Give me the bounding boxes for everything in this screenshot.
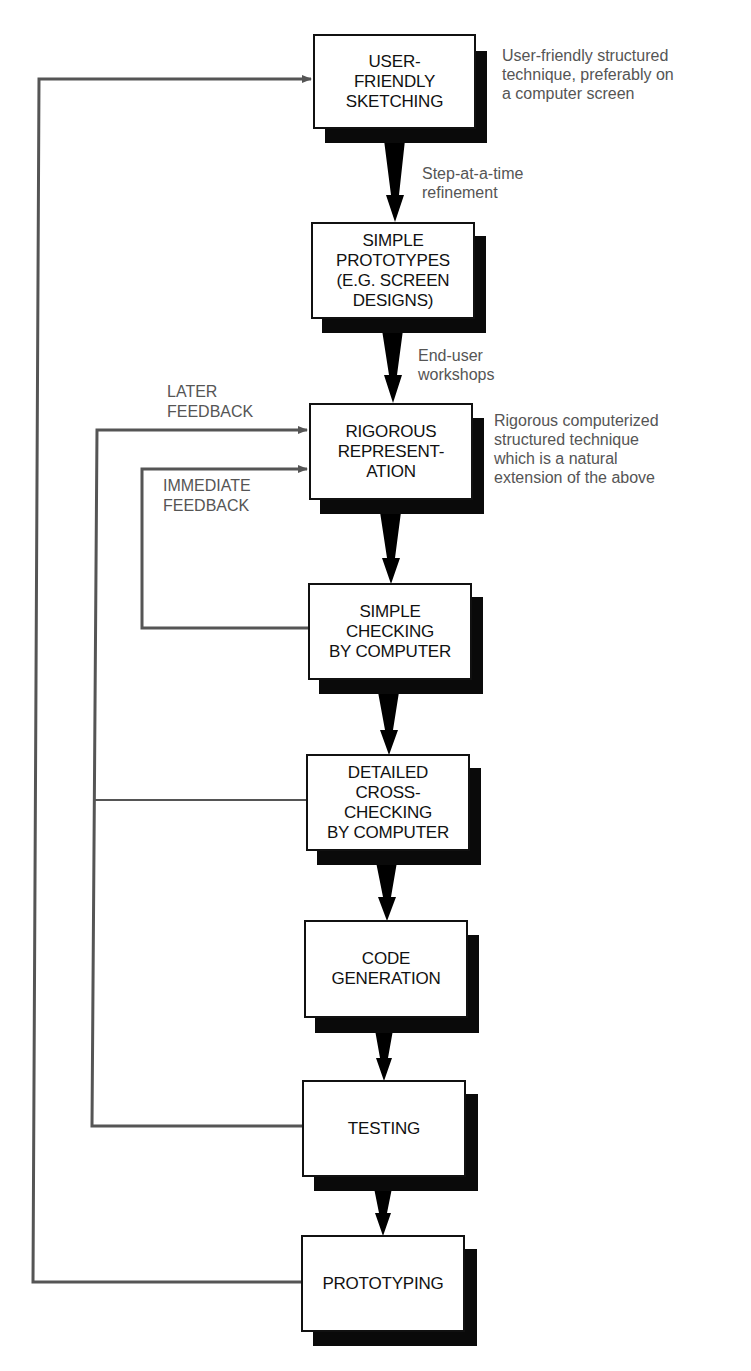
flow-arrow-1 <box>384 140 405 222</box>
flow-arrow-4 <box>378 692 399 755</box>
box-user-friendly-sketching: USER- FRIENDLY SKETCHING <box>313 34 476 129</box>
flow-arrow-2 <box>382 330 403 403</box>
later-feedback-line <box>92 430 307 1126</box>
rigorous-note: Rigorous computerized structured techniq… <box>494 411 659 487</box>
box-detailed-cross-checking: DETAILED CROSS- CHECKING BY COMPUTER <box>306 754 470 851</box>
flowchart-canvas: USER- FRIENDLY SKETCHING SIMPLE PROTOTYP… <box>0 0 751 1371</box>
box-label: RIGOROUS REPRESENT- ATION <box>338 422 445 482</box>
flow-arrow-7 <box>374 1188 392 1236</box>
flow-arrow-5 <box>376 862 397 921</box>
immediate-feedback-label: IMMEDIATE FEEDBACK <box>163 476 251 516</box>
box-label: CODE GENERATION <box>331 949 440 989</box>
prototyping-feedback-line <box>33 79 311 1282</box>
box-prototyping: PROTOTYPING <box>301 1235 465 1332</box>
box-rigorous-representation: RIGOROUS REPRESENT- ATION <box>309 403 473 500</box>
box-simple-checking: SIMPLE CHECKING BY COMPUTER <box>308 583 472 680</box>
box-label: DETAILED CROSS- CHECKING BY COMPUTER <box>327 763 449 843</box>
box-testing: TESTING <box>302 1080 466 1177</box>
step-refinement-note: Step-at-a-time refinement <box>422 164 523 202</box>
box-code-generation: CODE GENERATION <box>304 920 468 1018</box>
box-label: SIMPLE PROTOTYPES (E.G. SCREEN DESIGNS) <box>336 231 450 311</box>
later-feedback-label: LATER FEEDBACK <box>167 382 253 422</box>
sketching-note: User-friendly structured technique, pref… <box>502 46 674 103</box>
box-label: PROTOTYPING <box>322 1274 443 1294</box>
box-simple-prototypes: SIMPLE PROTOTYPES (E.G. SCREEN DESIGNS) <box>311 222 475 319</box>
flow-arrow-6 <box>375 1030 393 1081</box>
flow-arrow-3 <box>380 512 401 584</box>
box-label: USER- FRIENDLY SKETCHING <box>346 52 443 112</box>
box-label: SIMPLE CHECKING BY COMPUTER <box>329 602 451 662</box>
end-user-workshops-note: End-user workshops <box>418 346 494 384</box>
box-label: TESTING <box>348 1119 420 1139</box>
